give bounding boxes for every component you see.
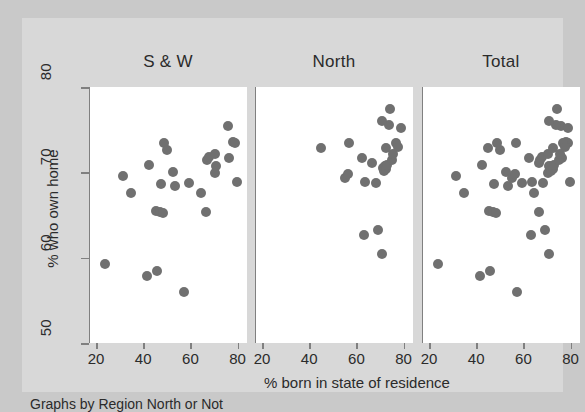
x-tick-label: 40 [126, 350, 160, 367]
data-point [477, 160, 487, 170]
x-tick-label: 40 [292, 350, 326, 367]
data-point [201, 207, 211, 217]
x-tick-mark [190, 343, 192, 349]
data-point [527, 177, 537, 187]
y-tick-label: 70 [37, 149, 54, 195]
data-point [168, 167, 178, 177]
data-point [534, 207, 544, 217]
y-tick-mark [81, 258, 89, 260]
data-point [511, 138, 521, 148]
data-point [184, 178, 194, 188]
data-point [142, 271, 152, 281]
data-point [357, 153, 367, 163]
data-point [223, 121, 233, 131]
data-point [360, 177, 370, 187]
x-tick-mark [96, 343, 98, 349]
y-axis-label: % who own home [44, 104, 61, 314]
data-point [343, 169, 353, 179]
data-point [385, 104, 395, 114]
x-tick-mark [309, 343, 311, 349]
x-tick-mark [523, 343, 525, 349]
data-point [433, 259, 443, 269]
data-point [495, 145, 505, 155]
x-tick-label: 80 [554, 350, 585, 367]
data-point [232, 177, 242, 187]
y-tick-mark [81, 172, 89, 174]
x-tick-mark [476, 343, 478, 349]
data-point [156, 179, 166, 189]
scatter-panel-north [255, 87, 413, 343]
data-point [162, 145, 172, 155]
data-point [459, 188, 469, 198]
data-point [451, 171, 461, 181]
data-point [510, 169, 520, 179]
data-point [377, 249, 387, 259]
data-point [170, 181, 180, 191]
y-tick-label: 80 [37, 64, 54, 110]
y-tick-mark [81, 87, 89, 89]
data-point [560, 142, 570, 152]
data-point [529, 188, 539, 198]
x-tick-label: 60 [173, 350, 207, 367]
y-tick-label: 60 [37, 234, 54, 280]
data-point [316, 143, 326, 153]
x-tick-mark [143, 343, 145, 349]
x-tick-label: 20 [412, 350, 446, 367]
data-point [224, 153, 234, 163]
scatter-panel-total [422, 87, 580, 343]
x-tick-label: 60 [339, 350, 373, 367]
data-point [371, 178, 381, 188]
data-point [544, 249, 554, 259]
x-tick-mark [262, 343, 264, 349]
scatter-panel-sw [89, 87, 247, 343]
x-tick-mark [404, 343, 406, 349]
data-point [230, 138, 240, 148]
data-point [475, 271, 485, 281]
data-point [534, 158, 544, 168]
data-point [517, 178, 527, 188]
x-tick-label: 20 [79, 350, 113, 367]
panel-title-sw: S & W [89, 52, 247, 74]
data-point [491, 208, 501, 218]
data-point [210, 149, 220, 159]
data-point [373, 225, 383, 235]
data-point [152, 266, 162, 276]
data-point [489, 179, 499, 189]
data-point [393, 142, 403, 152]
data-point [210, 168, 220, 178]
data-point [526, 230, 536, 240]
data-point [367, 158, 377, 168]
data-point [396, 123, 406, 133]
data-point [483, 143, 493, 153]
data-point [359, 230, 369, 240]
x-tick-label: 40 [459, 350, 493, 367]
data-point [344, 138, 354, 148]
x-tick-mark [356, 343, 358, 349]
panel-title-total: Total [422, 52, 580, 74]
y-tick-label: 50 [37, 320, 54, 366]
data-point [552, 104, 562, 114]
data-point [563, 123, 573, 133]
data-point [179, 287, 189, 297]
data-point [512, 287, 522, 297]
data-point [118, 171, 128, 181]
data-point [524, 153, 534, 163]
panel-title-north: North [255, 52, 413, 74]
chart-card: % who own home 50607080 S & W North Tota… [22, 18, 563, 392]
data-point [196, 188, 206, 198]
x-axis-label: % born in state of residence [147, 374, 567, 391]
chart-note: Graphs by Region North or Not [30, 396, 223, 412]
x-tick-mark [238, 343, 240, 349]
x-tick-label: 60 [506, 350, 540, 367]
data-point [540, 225, 550, 235]
x-tick-mark [429, 343, 431, 349]
data-point [485, 266, 495, 276]
data-point [503, 181, 513, 191]
data-point [126, 188, 136, 198]
data-point [100, 259, 110, 269]
y-tick-mark [81, 343, 89, 345]
data-point [538, 178, 548, 188]
data-point [565, 177, 575, 187]
x-tick-mark [571, 343, 573, 349]
